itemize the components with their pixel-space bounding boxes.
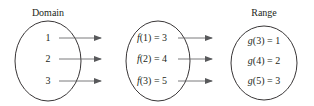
intermediate-item-1: f(1) = 3 xyxy=(137,32,167,44)
intermediate-item-3: f(3) = 5 xyxy=(137,75,167,87)
domain-item-1: 1 xyxy=(46,32,51,43)
range-item-1: g(3) = 1 xyxy=(248,35,280,47)
domain-label: Domain xyxy=(32,7,64,18)
intermediate-item-2: f(2) = 4 xyxy=(137,53,167,65)
domain-item-2: 2 xyxy=(46,53,51,64)
domain-set: Domain 1 2 3 xyxy=(15,7,81,101)
intermediate-set: f(1) = 3 f(2) = 4 f(3) = 5 xyxy=(126,21,190,101)
arrows-f xyxy=(59,38,101,81)
range-item-3: g(5) = 3 xyxy=(248,75,280,87)
arrows-g xyxy=(178,38,212,81)
range-set: Range g(3) = 1 g(4) = 2 g(5) = 3 xyxy=(231,7,297,100)
range-label: Range xyxy=(251,7,277,18)
function-composition-diagram: Domain 1 2 3 f(1) = 3 f(2) = 4 f(3) = 5 … xyxy=(0,0,314,106)
range-item-2: g(4) = 2 xyxy=(248,55,280,67)
domain-item-3: 3 xyxy=(46,75,51,86)
